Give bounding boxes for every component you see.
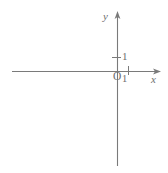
origin-label: O: [113, 71, 121, 83]
y-axis-label: y: [103, 11, 108, 22]
x-axis-label: x: [151, 74, 156, 85]
coordinate-axes-figure: y x O 1 1: [0, 0, 168, 173]
axes-drawing: [0, 0, 168, 173]
x-axis-unit-label: 1: [122, 74, 127, 85]
y-axis-unit-label: 1: [122, 51, 128, 62]
